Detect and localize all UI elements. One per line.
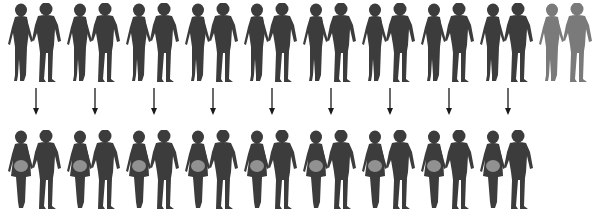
arrow-down-icon — [503, 88, 513, 116]
arrow-down-icon — [326, 88, 336, 116]
arrow-down-icon — [90, 88, 100, 116]
arrow-down-icon — [444, 88, 454, 116]
arrow-down-icon — [385, 88, 395, 116]
couple-silhouette — [65, 3, 121, 83]
couples-diagram — [0, 0, 597, 216]
arrow-down-icon — [208, 88, 218, 116]
arrow-down-icon — [267, 88, 277, 116]
couple-silhouette — [360, 3, 416, 83]
arrow-down-icon — [149, 88, 159, 116]
pregnant-couple-silhouette — [6, 130, 62, 210]
pregnant-couple-silhouette — [183, 130, 239, 210]
arrow-down-icon — [31, 88, 41, 116]
pregnant-couple-silhouette — [360, 130, 416, 210]
couple-silhouette — [478, 3, 534, 83]
pregnant-couple-silhouette — [124, 130, 180, 210]
pregnant-couple-silhouette — [301, 130, 357, 210]
pregnant-couple-silhouette — [65, 130, 121, 210]
couple-silhouette — [242, 3, 298, 83]
couple-silhouette — [301, 3, 357, 83]
couple-silhouette-faded — [537, 3, 593, 83]
couple-silhouette — [124, 3, 180, 83]
couple-silhouette — [419, 3, 475, 83]
couple-silhouette — [6, 3, 62, 83]
pregnant-couple-silhouette — [419, 130, 475, 210]
pregnant-couple-silhouette — [242, 130, 298, 210]
couple-silhouette — [183, 3, 239, 83]
pregnant-couple-silhouette — [478, 130, 534, 210]
